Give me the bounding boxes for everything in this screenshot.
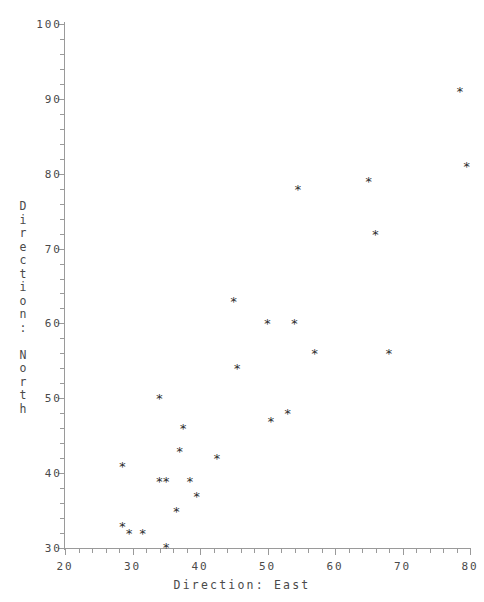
x-tick-label: 30 — [124, 560, 141, 573]
x-tick-label: 60 — [326, 560, 343, 573]
x-tick-minor — [241, 548, 242, 553]
data-point: * — [176, 444, 184, 457]
x-tick-label: 80 — [461, 560, 478, 573]
y-axis-title-char: o — [16, 295, 30, 309]
x-tick-minor — [146, 548, 147, 553]
y-axis-title-char: i — [16, 281, 30, 295]
y-axis-title-char: D — [16, 200, 30, 214]
x-tick-minor — [79, 548, 80, 553]
x-tick-label: 50 — [259, 560, 276, 573]
x-tick-minor — [349, 548, 350, 553]
data-point: * — [125, 527, 133, 540]
x-tick-major — [335, 548, 336, 555]
x-tick-major — [403, 548, 404, 555]
y-tick-label: 50 — [45, 392, 62, 405]
x-tick-minor — [106, 548, 107, 553]
x-tick-minor — [295, 548, 296, 553]
x-tick-minor — [443, 548, 444, 553]
x-tick-minor — [119, 548, 120, 553]
data-point: * — [162, 474, 170, 487]
data-point: * — [118, 459, 126, 472]
data-point: * — [456, 85, 464, 98]
x-tick-major — [133, 548, 134, 555]
y-axis-title-char: n — [16, 308, 30, 322]
data-point: * — [264, 317, 272, 330]
y-axis-title-char: t — [16, 268, 30, 282]
y-tick-label: 70 — [45, 242, 62, 255]
x-tick-major — [200, 548, 201, 555]
chart-top-title — [0, 0, 484, 2]
y-axis-title-char: h — [16, 403, 30, 417]
x-tick-minor — [308, 548, 309, 553]
y-axis-title-char: r — [16, 227, 30, 241]
data-point: * — [193, 489, 201, 502]
x-tick-label: 20 — [56, 560, 73, 573]
x-tick-minor — [227, 548, 228, 553]
y-axis-title-char: r — [16, 376, 30, 390]
data-point: * — [230, 294, 238, 307]
x-tick-minor — [281, 548, 282, 553]
x-axis-title: Direction: East — [0, 578, 484, 592]
data-point: * — [156, 392, 164, 405]
data-point: * — [294, 182, 302, 195]
x-tick-minor — [187, 548, 188, 553]
y-axis-title-char: t — [16, 389, 30, 403]
y-tick-label: 90 — [45, 92, 62, 105]
data-point: * — [385, 347, 393, 360]
x-tick-label: 40 — [191, 560, 208, 573]
x-tick-minor — [457, 548, 458, 553]
y-axis-title-char: c — [16, 254, 30, 268]
x-tick-minor — [416, 548, 417, 553]
data-point: * — [311, 347, 319, 360]
x-tick-minor — [362, 548, 363, 553]
data-point: * — [179, 422, 187, 435]
data-point: * — [372, 227, 380, 240]
scatter-chart: 30405060708090100 20304050607080 Directi… — [0, 0, 484, 602]
data-point: * — [233, 362, 241, 375]
data-point: * — [162, 540, 170, 553]
x-tick-label: 70 — [394, 560, 411, 573]
y-axis-title-char: N — [16, 349, 30, 363]
data-point: * — [463, 160, 471, 173]
x-tick-major — [470, 548, 471, 555]
x-tick-minor — [214, 548, 215, 553]
x-tick-minor — [389, 548, 390, 553]
x-tick-minor — [376, 548, 377, 553]
y-tick-label: 80 — [45, 167, 62, 180]
y-axis-title-char: o — [16, 362, 30, 376]
y-axis-title: Direction: North — [16, 200, 30, 416]
x-tick-minor — [254, 548, 255, 553]
data-point: * — [213, 452, 221, 465]
data-point: * — [284, 407, 292, 420]
x-tick-minor — [322, 548, 323, 553]
y-tick-label: 60 — [45, 317, 62, 330]
y-axis-title-char: e — [16, 241, 30, 255]
y-axis-title-char — [16, 335, 30, 349]
x-tick-minor — [173, 548, 174, 553]
x-tick-major — [268, 548, 269, 555]
y-tick-label: 100 — [36, 18, 62, 31]
x-tick-minor — [92, 548, 93, 553]
x-tick-minor — [430, 548, 431, 553]
y-axis-title-char: i — [16, 214, 30, 228]
data-point: * — [186, 474, 194, 487]
data-point: * — [172, 504, 180, 517]
x-tick-major — [65, 548, 66, 555]
y-tick-label: 40 — [45, 467, 62, 480]
data-point: * — [291, 317, 299, 330]
data-point: * — [365, 175, 373, 188]
x-tick-minor — [160, 548, 161, 553]
y-tick-label: 30 — [45, 542, 62, 555]
data-point: * — [267, 414, 275, 427]
data-point: * — [139, 527, 147, 540]
y-axis-title-char: : — [16, 322, 30, 336]
